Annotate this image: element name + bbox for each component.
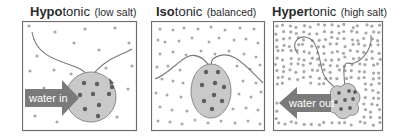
isotonic-panel <box>151 21 266 132</box>
title-bold: Iso <box>156 4 175 19</box>
title-bold: Hyper <box>272 4 309 19</box>
title-subtitle: (high salt) <box>341 6 387 18</box>
panel-title-hypertonic: Hypertonic (high salt) <box>272 2 387 20</box>
hypotonic-panel: water in <box>22 21 138 132</box>
arrow-label: water out <box>288 97 334 109</box>
title-rest: tonic <box>175 4 202 19</box>
arrow-label: water in <box>28 92 68 104</box>
title-bold: Hypo <box>30 4 63 19</box>
title-subtitle: (low salt) <box>94 6 136 18</box>
panel-title-isotonic: Isotonic (balanced) <box>156 2 256 20</box>
title-rest: tonic <box>63 4 90 19</box>
hypertonic-panel: water out <box>273 21 384 132</box>
panel-title-hypotonic: Hypotonic (low salt) <box>30 2 136 20</box>
title-rest: tonic <box>309 4 336 19</box>
title-subtitle: (balanced) <box>207 6 257 18</box>
